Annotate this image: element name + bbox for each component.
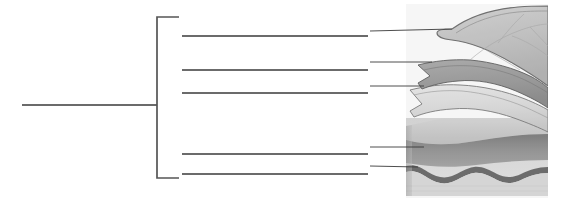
illustration-texture <box>406 4 548 198</box>
leader-system <box>22 17 452 178</box>
figure-canvas <box>0 0 562 206</box>
figure-root <box>0 0 562 206</box>
grouping-bracket <box>157 17 179 178</box>
layered-tissue-illustration <box>406 4 548 198</box>
